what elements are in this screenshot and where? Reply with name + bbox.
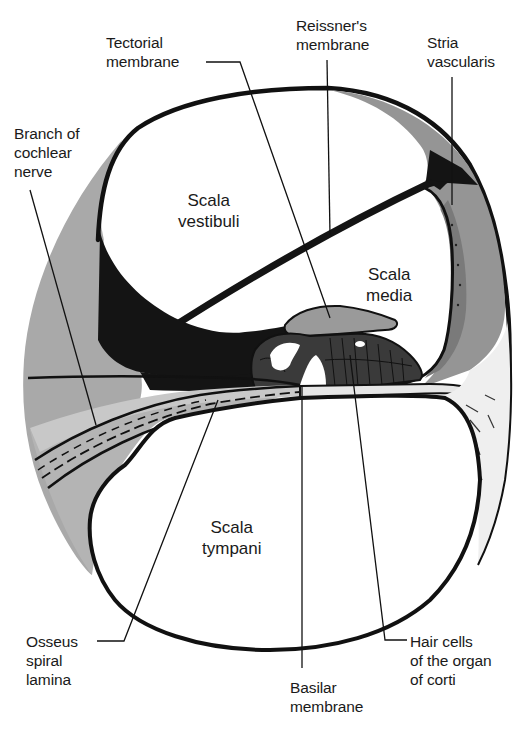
label-scala-media: Scala media bbox=[366, 264, 412, 306]
cochlea-cross-section-diagram bbox=[0, 0, 531, 731]
label-osseus-spiral-lamina: Osseus spiral lamina bbox=[26, 632, 78, 689]
label-scala-tympani: Scala tympani bbox=[202, 517, 262, 559]
label-branch-of-cochlear-nerve: Branch of cochlear nerve bbox=[14, 124, 79, 181]
label-tectorial-membrane: Tectorial membrane bbox=[106, 33, 179, 71]
label-reissners-membrane: Reissner's membrane bbox=[296, 16, 369, 54]
label-basilar-membrane: Basilar membrane bbox=[290, 678, 363, 716]
label-stria-vascularis: Stria vascularis bbox=[427, 33, 495, 71]
label-scala-vestibuli: Scala vestibuli bbox=[178, 190, 239, 232]
outer-tunnel-space bbox=[355, 341, 365, 347]
label-hair-cells-organ-of-corti: Hair cells of the organ of corti bbox=[410, 632, 492, 689]
scala-tympani-outline bbox=[90, 396, 480, 650]
